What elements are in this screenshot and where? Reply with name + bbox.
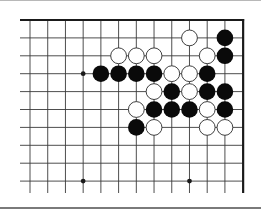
black-stone [93, 65, 110, 82]
black-stone [181, 101, 198, 118]
stones [93, 30, 234, 136]
black-stone [199, 65, 216, 82]
go-board [0, 0, 261, 215]
white-stone [146, 84, 162, 100]
black-stone [199, 83, 216, 100]
black-stone [163, 83, 180, 100]
black-stone [217, 83, 234, 100]
black-stone [146, 101, 163, 118]
black-stone [217, 101, 234, 118]
hoshi-point-icon [187, 179, 192, 184]
white-stone [182, 84, 198, 100]
white-stone [199, 120, 215, 136]
black-stone [217, 48, 234, 65]
black-stone [163, 101, 180, 118]
white-stone [199, 102, 215, 118]
white-stone [182, 66, 198, 82]
white-stone [128, 48, 144, 64]
black-stone [110, 65, 127, 82]
black-stone [128, 65, 145, 82]
white-stone [146, 48, 162, 64]
bottom-rule [0, 207, 261, 209]
hoshi-point-icon [81, 179, 86, 184]
white-stone [182, 30, 198, 46]
white-stone [146, 120, 162, 136]
white-stone [199, 48, 215, 64]
white-stone [111, 48, 127, 64]
white-stone [128, 102, 144, 118]
white-stone [164, 66, 180, 82]
black-stone [128, 119, 145, 136]
black-stone [217, 30, 234, 47]
hoshi-point-icon [81, 71, 86, 76]
white-stone [217, 120, 233, 136]
black-stone [146, 65, 163, 82]
